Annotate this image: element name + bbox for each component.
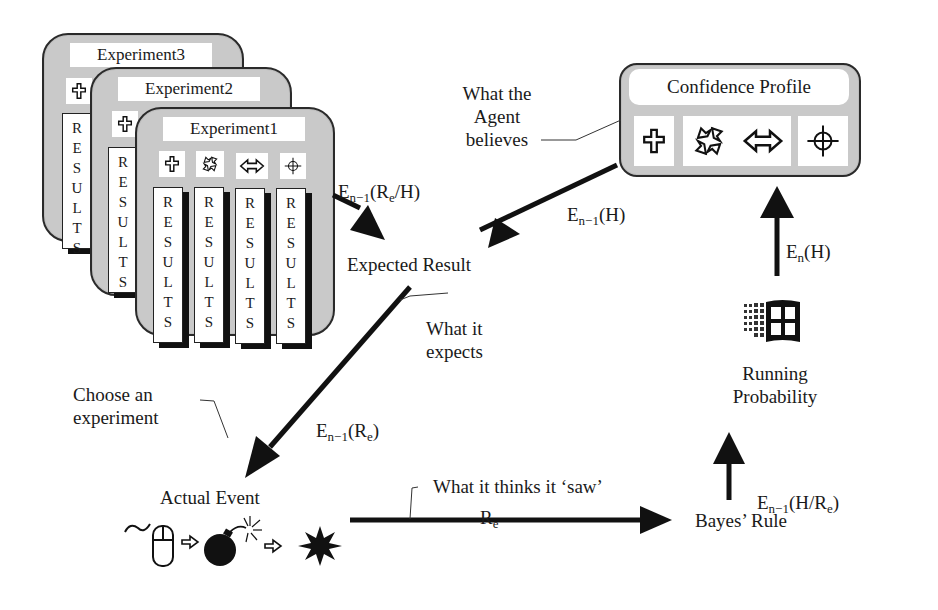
windows-flag-icon xyxy=(742,298,804,346)
event-sequence xyxy=(120,512,350,572)
bomb-icon xyxy=(204,516,262,566)
edge-label-expected-to-actual: En−1(Re) xyxy=(316,419,379,442)
running-probability-node: Running Probability xyxy=(714,362,836,408)
annotation-agent-believes: What the Agent believes xyxy=(432,82,562,151)
annotation-what-it-expects: What it expects xyxy=(426,317,483,363)
annotation-choose-experiment: Choose an experiment xyxy=(73,383,158,429)
mouse-icon xyxy=(125,524,173,566)
edge-label-profile-to-expected: En−1(H) xyxy=(567,203,625,226)
actual-event-node: Actual Event xyxy=(160,486,260,509)
small-arrow-icon xyxy=(265,540,281,552)
explosion-icon xyxy=(298,526,342,566)
expected-result-node: Expected Result xyxy=(347,253,471,276)
edge-label-actual-to-bayes: Re xyxy=(480,506,498,529)
edge-label-bayes-to-running: En−1(H/Re) xyxy=(757,491,839,514)
edge-label-running-to-profile: En(H) xyxy=(786,240,831,263)
annotation-what-it-saw: What it thinks it ‘saw’ xyxy=(433,475,603,498)
edge-label-exp-to-expected: En−1(Re/H) xyxy=(338,180,420,203)
small-arrow-icon xyxy=(182,536,198,548)
